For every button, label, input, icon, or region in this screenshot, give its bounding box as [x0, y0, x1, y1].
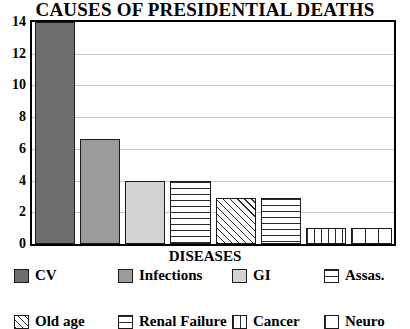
legend-swatch-icon	[118, 315, 133, 329]
legend-item-cv[interactable]: CV	[14, 268, 57, 283]
legend-item-gi[interactable]: GI	[232, 268, 271, 283]
legend-label: Renal Failure	[139, 314, 227, 329]
legend-swatch-icon	[324, 269, 339, 283]
legend-label: CV	[35, 268, 57, 283]
legend-label: Old age	[35, 314, 85, 329]
chart-legend: CVInfectionsGIAssas.Old ageRenal Failure…	[14, 268, 400, 314]
bar-assas[interactable]	[170, 181, 210, 244]
legend-label: Cancer	[253, 314, 300, 329]
legend-item-neuro[interactable]: Neuro	[324, 314, 385, 329]
bar-cv[interactable]	[35, 22, 75, 244]
legend-swatch-icon	[118, 269, 133, 283]
legend-row: CVInfectionsGIAssas.	[14, 268, 400, 291]
plot-area	[30, 20, 396, 246]
legend-item-infections[interactable]: Infections	[118, 268, 202, 283]
bar-renal-failure[interactable]	[261, 198, 301, 244]
legend-label: Assas.	[345, 268, 385, 283]
legend-row: Old ageRenal FailureCancerNeuro	[14, 291, 400, 314]
y-tick-label: 4	[2, 175, 26, 187]
legend-swatch-icon	[232, 315, 247, 329]
legend-label: Neuro	[345, 314, 385, 329]
bar-cancer[interactable]	[306, 228, 346, 244]
bar-old-age[interactable]	[216, 198, 256, 244]
legend-item-renal-failure[interactable]: Renal Failure	[118, 314, 227, 329]
legend-swatch-icon	[324, 315, 339, 329]
y-tick-label: 2	[2, 206, 26, 218]
bar-infections[interactable]	[80, 139, 120, 244]
x-axis-title: DISEASES	[0, 248, 410, 265]
chart-title: CAUSES OF PRESIDENTIAL DEATHS	[0, 0, 410, 20]
legend-label: Infections	[139, 268, 202, 283]
legend-item-cancer[interactable]: Cancer	[232, 314, 300, 329]
bar-neuro[interactable]	[351, 228, 391, 244]
legend-label: GI	[253, 268, 271, 283]
legend-swatch-icon	[14, 269, 29, 283]
y-tick-label: 14	[2, 16, 26, 28]
y-tick-label: 6	[2, 143, 26, 155]
bars-group	[32, 22, 394, 244]
legend-item-assas[interactable]: Assas.	[324, 268, 385, 283]
y-tick-label: 8	[2, 111, 26, 123]
legend-swatch-icon	[14, 315, 29, 329]
y-tick-label: 12	[2, 48, 26, 60]
bar-gi[interactable]	[125, 181, 165, 244]
y-tick-label: 10	[2, 79, 26, 91]
legend-item-old-age[interactable]: Old age	[14, 314, 85, 329]
legend-swatch-icon	[232, 269, 247, 283]
